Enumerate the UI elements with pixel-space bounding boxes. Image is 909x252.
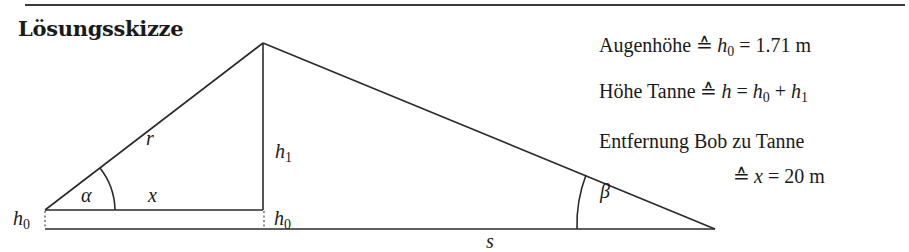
label-s: s: [486, 230, 494, 252]
label-x: x: [148, 184, 157, 207]
label-alpha: α: [81, 184, 92, 207]
alpha-arc: [100, 168, 115, 210]
info-distance-value: ≙x = 20 m: [728, 164, 825, 188]
info-distance-label: Entfernung Bob zu Tanne: [599, 130, 804, 153]
label-h1: h1: [275, 140, 292, 166]
beta-arc: [577, 175, 586, 229]
info-tree-height: Höhe Tanne≙h = h0 + h1: [599, 79, 808, 106]
info-eye-height: Augenhöhe≙h0 = 1.71 m: [599, 33, 811, 60]
label-beta: β: [600, 180, 610, 203]
label-h0-left: h0: [13, 207, 30, 233]
label-r: r: [146, 127, 154, 150]
label-h0-right: h0: [274, 207, 291, 233]
